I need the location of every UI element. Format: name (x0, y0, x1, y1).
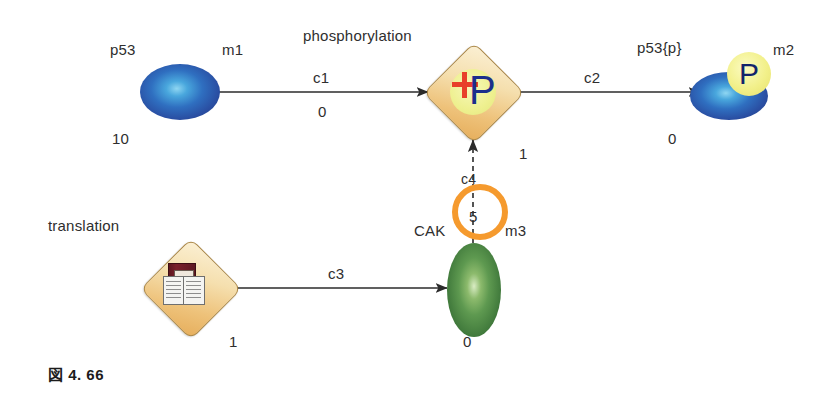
edge-c3-label: c3 (328, 266, 344, 281)
node-translation[interactable] (155, 253, 225, 323)
node-cak-count: 0 (463, 334, 472, 349)
edge-c1-value: 0 (318, 104, 327, 119)
node-p53-id: m1 (222, 42, 243, 57)
node-translation-count: 1 (229, 334, 238, 349)
node-p53-name: p53 (110, 42, 136, 57)
phosphorylation-glyph: P (438, 57, 508, 127)
node-cak-id: m3 (505, 223, 526, 238)
translation-glyph (155, 253, 225, 323)
node-p53p-count: 0 (668, 131, 677, 146)
node-p53-count: 10 (112, 131, 129, 146)
node-p53p-id: m2 (773, 42, 794, 57)
figure-caption: 図 4. 66 (48, 363, 104, 384)
node-p53p-name: p53{p} (637, 40, 682, 55)
node-cak-name: CAK (414, 223, 445, 238)
book-page-right (183, 276, 205, 305)
cak-modifier-ring-icon (452, 184, 508, 240)
phosphate-badge-icon: P (727, 52, 771, 96)
cak-ring-value: 5 (469, 208, 477, 225)
node-cak[interactable] (447, 243, 501, 337)
pathway-diagram: p53 m1 10 P phosphorylation 1 P p53{p} m… (0, 0, 840, 395)
node-translation-name: translation (48, 218, 119, 233)
node-phosphorylation-name: phosphorylation (303, 28, 412, 43)
book-page-left (163, 276, 185, 305)
edge-layer (0, 0, 840, 395)
node-phosphorylation[interactable]: P (438, 57, 508, 127)
open-book-icon (163, 276, 205, 303)
edge-c2-label: c2 (584, 70, 600, 85)
p-letter-icon: P (469, 70, 496, 110)
node-phosphorylation-count: 1 (519, 146, 528, 161)
edge-c4-label: c4 (461, 172, 476, 186)
edge-c1-label: c1 (313, 70, 329, 85)
node-p53[interactable] (140, 64, 220, 120)
